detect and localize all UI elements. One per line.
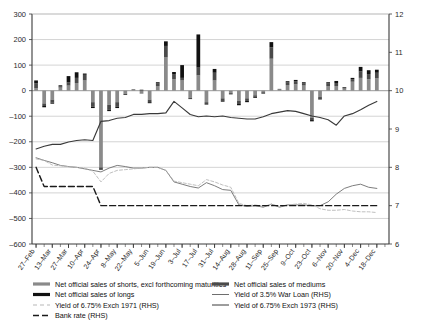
- gilt-sales-and-yields-chart: 3002001000–100–200–300–400–500–600121110…: [0, 0, 423, 329]
- bar-segment: [245, 101, 249, 102]
- legend-item[interactable]: Yield of 6.75% Exch 1971 (RHS): [33, 301, 159, 310]
- legend-item[interactable]: Net official sales of shorts, excl forth…: [33, 280, 227, 289]
- bar-segment: [213, 80, 217, 90]
- bar-segment: [318, 91, 322, 97]
- svg-text:9–Oct: 9–Oct: [279, 248, 295, 267]
- bar-segment: [172, 74, 176, 79]
- bar-segment: [310, 120, 314, 121]
- legend-item[interactable]: Net official sales of longs: [33, 290, 135, 299]
- bar-segment: [148, 100, 152, 103]
- bar-segment: [253, 95, 257, 97]
- bar-segment: [213, 73, 217, 81]
- svg-text:12: 12: [395, 10, 403, 19]
- svg-text:5–Jun: 5–Jun: [133, 247, 150, 267]
- svg-text:18–Dec: 18–Dec: [357, 247, 377, 271]
- bar-segment: [59, 86, 63, 87]
- y-axis-left: 3002001000–100–200–300–400–500–600: [9, 10, 32, 249]
- bar-segment: [245, 98, 249, 101]
- legend: Net official sales of shorts, excl forth…: [33, 280, 338, 321]
- bar-segment: [269, 47, 273, 59]
- bar-segment: [67, 76, 71, 82]
- legend-label: Net official sales of shorts, excl forth…: [55, 280, 227, 289]
- bar-segment: [237, 101, 241, 104]
- bar-segment: [180, 78, 184, 81]
- bar-segment: [91, 91, 95, 103]
- bar-segment: [294, 81, 298, 84]
- bar-segment: [326, 86, 330, 91]
- svg-text:23–Oct: 23–Oct: [293, 248, 312, 271]
- bar-segment: [115, 102, 119, 107]
- bar-segment: [188, 98, 192, 99]
- bar-segment: [229, 93, 233, 94]
- bar-segment: [164, 46, 168, 58]
- bar-segment: [67, 86, 71, 91]
- bar-segment: [326, 82, 330, 83]
- bar-segment: [334, 81, 338, 83]
- legend-item[interactable]: Yield of 3.5% War Loan (RHS): [212, 290, 331, 299]
- bar-segment: [367, 70, 371, 74]
- bar-segment: [351, 82, 355, 91]
- bar-segment: [351, 79, 355, 82]
- bar-segment: [83, 80, 87, 90]
- chart-container: 3002001000–100–200–300–400–500–600121110…: [0, 0, 423, 329]
- svg-text:17–Jul: 17–Jul: [181, 247, 199, 268]
- bar-segment: [132, 89, 136, 90]
- bar-segment: [245, 91, 249, 99]
- bar-segment: [294, 80, 298, 81]
- bar-segment: [91, 102, 95, 107]
- legend-item[interactable]: Net official sales of mediums: [212, 280, 326, 289]
- bar-segment: [75, 72, 79, 78]
- bar-segment: [375, 70, 379, 73]
- series-line: [36, 159, 377, 213]
- bar-segment: [351, 78, 355, 79]
- bar-segment: [343, 88, 347, 89]
- bar-segment: [123, 91, 127, 94]
- bar-segment: [237, 91, 241, 101]
- svg-text:9: 9: [395, 125, 399, 134]
- legend-label: Yield of 6.75% Exch 1971 (RHS): [55, 301, 159, 310]
- bar-segment: [367, 79, 371, 91]
- bar-segment: [156, 82, 160, 83]
- bar-segment: [278, 89, 282, 90]
- legend-label: Yield of 3.5% War Loan (RHS): [234, 290, 331, 299]
- bar-segment: [59, 88, 63, 91]
- bar-segment: [359, 72, 363, 78]
- bar-segment: [140, 90, 144, 91]
- bar-segment: [34, 88, 38, 91]
- bar-segment: [221, 100, 225, 101]
- bar-segment: [196, 34, 200, 67]
- bar-segment: [359, 78, 363, 91]
- legend-label: Net official sales of mediums: [234, 280, 326, 289]
- svg-text:19–Jun: 19–Jun: [147, 247, 166, 270]
- bar-segment: [188, 91, 192, 98]
- bar-segment: [196, 68, 200, 76]
- bar-segment: [286, 81, 290, 82]
- bar-segment: [115, 91, 119, 103]
- svg-text:–100: –100: [9, 112, 26, 121]
- svg-text:200: 200: [13, 35, 26, 44]
- series-line: [36, 158, 377, 207]
- bar-segment: [302, 82, 306, 83]
- legend-item[interactable]: Yield of 6.75% Exch 1973 (RHS): [212, 301, 338, 310]
- bar-segment: [261, 93, 265, 94]
- bar-segment: [261, 92, 265, 93]
- bar-segment: [278, 89, 282, 90]
- bar-segment: [334, 83, 338, 86]
- bar-segment: [367, 74, 371, 79]
- bar-segment: [196, 75, 200, 90]
- bar-segment: [269, 59, 273, 91]
- bar-segment: [253, 91, 257, 96]
- bar-segment: [42, 91, 46, 104]
- bar-segment: [286, 85, 290, 91]
- bar-segment: [107, 91, 111, 105]
- legend-item[interactable]: Bank rate (RHS): [33, 311, 108, 320]
- bar-segment: [140, 91, 144, 94]
- bar-segment: [318, 97, 322, 100]
- bar-segment: [34, 80, 38, 83]
- bar-segment: [269, 42, 273, 47]
- bar-segment: [107, 105, 111, 110]
- bar-segment: [326, 84, 330, 87]
- bar-segment: [148, 102, 152, 103]
- bar-segment: [107, 110, 111, 111]
- bar-segment: [59, 85, 63, 86]
